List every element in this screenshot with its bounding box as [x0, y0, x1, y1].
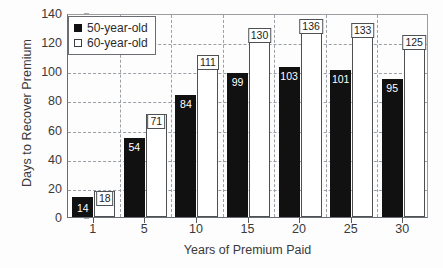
bar-group: 99130 — [227, 15, 270, 217]
x-tick-label: 10 — [189, 222, 203, 236]
x-tick-label: 25 — [344, 222, 358, 236]
bar-value-label: 125 — [402, 35, 426, 50]
x-tick-mark — [402, 218, 403, 223]
bar-value-label: 71 — [148, 114, 166, 129]
vertical-gridline — [377, 15, 378, 217]
x-axis-tick-labels: 151015202530 — [67, 222, 428, 240]
bar-value-label: 99 — [228, 77, 247, 88]
hollow-square-icon — [74, 39, 82, 47]
x-tick-mark — [299, 218, 300, 223]
x-tick-mark — [196, 218, 197, 223]
bar-value-label: 111 — [197, 55, 219, 70]
bar-value-label: 136 — [299, 19, 323, 34]
bar-50-year-old: 101 — [330, 70, 351, 217]
vertical-gridline — [326, 15, 327, 217]
legend-label: 60-year-old — [87, 36, 148, 50]
bar-60-year-old: 130 — [249, 28, 270, 217]
x-tick-mark — [351, 218, 352, 223]
bar-50-year-old: 84 — [175, 95, 196, 217]
legend-label: 50-year-old — [87, 21, 148, 35]
y-tick-label: 140 — [22, 7, 62, 21]
bar-50-year-old: 103 — [279, 67, 300, 217]
x-tick-label: 15 — [241, 222, 255, 236]
bar-value-label: 95 — [383, 83, 402, 94]
y-axis-tick-labels: 020406080100120140 — [22, 0, 62, 268]
bar-group: 84111 — [175, 15, 218, 217]
bar-60-year-old: 136 — [301, 19, 322, 217]
bar-chart: Days to Recover Premium 0204060801001201… — [0, 0, 443, 268]
x-tick-mark — [93, 218, 94, 223]
x-tick-label: 30 — [395, 222, 409, 236]
bar-value-label: 18 — [96, 191, 114, 206]
y-tick-label: 100 — [22, 65, 62, 79]
bar-value-label: 133 — [351, 23, 375, 38]
x-tick-mark — [248, 218, 249, 223]
vertical-gridline — [223, 15, 224, 217]
bar-50-year-old: 95 — [382, 79, 403, 217]
bar-group: 103136 — [279, 15, 322, 217]
bar-60-year-old: 71 — [146, 114, 167, 217]
bar-value-label: 84 — [176, 99, 195, 110]
bar-50-year-old: 99 — [227, 73, 248, 217]
vertical-gridline — [274, 15, 275, 217]
y-tick-label: 60 — [22, 124, 62, 138]
bar-50-year-old: 54 — [124, 138, 145, 217]
chart-legend: 50-year-old60-year-old — [68, 16, 156, 55]
x-tick-mark — [144, 218, 145, 223]
bar-value-label: 54 — [125, 142, 144, 153]
filled-square-icon — [74, 24, 82, 32]
bar-value-label: 103 — [280, 71, 299, 82]
bar-60-year-old: 18 — [94, 191, 115, 217]
y-tick-label: 40 — [22, 153, 62, 167]
bar-value-label: 14 — [73, 203, 92, 214]
bar-group: 95125 — [382, 15, 425, 217]
x-tick-label: 1 — [89, 222, 96, 236]
bar-60-year-old: 111 — [197, 55, 218, 217]
bar-60-year-old: 125 — [404, 35, 425, 217]
bar-value-label: 101 — [331, 74, 350, 85]
bar-value-label: 130 — [248, 28, 272, 43]
y-tick-label: 120 — [22, 36, 62, 50]
bar-50-year-old: 14 — [72, 197, 93, 217]
y-tick-label: 0 — [22, 211, 62, 225]
x-axis-title: Years of Premium Paid — [67, 243, 428, 257]
y-tick-label: 20 — [22, 182, 62, 196]
x-tick-label: 20 — [292, 222, 306, 236]
legend-item: 60-year-old — [74, 35, 148, 50]
vertical-gridline — [171, 15, 172, 217]
bar-60-year-old: 133 — [352, 23, 373, 217]
legend-item: 50-year-old — [74, 20, 148, 35]
x-tick-label: 5 — [141, 222, 148, 236]
y-tick-label: 80 — [22, 94, 62, 108]
bar-group: 101133 — [330, 15, 373, 217]
